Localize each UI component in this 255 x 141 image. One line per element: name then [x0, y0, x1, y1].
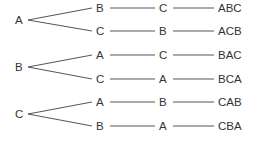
branch-line [28, 102, 92, 114]
result-node: ACB [218, 25, 242, 37]
root-node-c: C [15, 108, 23, 120]
result-node: BCA [218, 73, 242, 85]
result-node: ABC [218, 2, 242, 14]
level2-node: A [159, 73, 167, 85]
level1-node: A [96, 49, 104, 61]
level2-node: C [159, 49, 167, 61]
level2-node: B [159, 96, 167, 108]
branch-line [28, 67, 92, 79]
root-node-a: A [15, 14, 23, 26]
branch-line [28, 20, 92, 31]
tree-group-b: B A C BAC C A BCA [15, 49, 242, 85]
level1-node: C [96, 73, 104, 85]
tree-group-c: C A B CAB B A CBA [15, 96, 242, 132]
result-node: BAC [218, 49, 242, 61]
level1-node: B [96, 2, 104, 14]
branch-line [28, 8, 92, 20]
level2-node: A [159, 120, 167, 132]
level1-node: C [96, 25, 104, 37]
level1-node: B [96, 120, 104, 132]
branch-line [28, 114, 92, 126]
result-node: CBA [218, 120, 242, 132]
permutation-tree-diagram: A B C ABC C B ACB B A C BAC C A BCA C A [0, 0, 255, 141]
branch-line [28, 55, 92, 67]
result-node: CAB [218, 96, 242, 108]
level2-node: B [159, 25, 167, 37]
level1-node: A [96, 96, 104, 108]
tree-group-a: A B C ABC C B ACB [15, 2, 242, 37]
level2-node: C [159, 2, 167, 14]
root-node-b: B [15, 61, 23, 73]
